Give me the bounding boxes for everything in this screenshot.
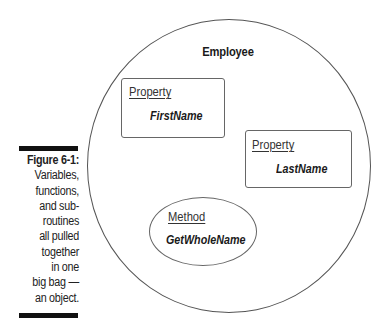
caption-line: routines bbox=[11, 214, 79, 229]
property-box-firstname: Property FirstName bbox=[121, 78, 225, 138]
caption-line: together bbox=[11, 245, 79, 260]
member-name: FirstName bbox=[150, 109, 203, 123]
caption-line: functions, bbox=[11, 184, 79, 199]
member-kind-label: Method bbox=[168, 209, 205, 224]
caption-line: Variables, bbox=[11, 168, 79, 183]
object-label: Employee bbox=[200, 44, 255, 59]
caption-bottom-rule bbox=[19, 313, 78, 318]
caption-top-rule bbox=[19, 146, 78, 151]
member-kind-label: Property bbox=[129, 84, 171, 99]
member-name: GetWholeName bbox=[166, 233, 245, 247]
member-name: LastName bbox=[276, 162, 327, 176]
caption-line: big bag — bbox=[11, 275, 79, 290]
caption-line: and sub- bbox=[11, 199, 79, 214]
property-box-lastname: Property LastName bbox=[245, 130, 352, 188]
caption-line: in one bbox=[11, 260, 79, 275]
figure-number: Figure 6-1: bbox=[11, 153, 79, 168]
caption-line: all pulled bbox=[11, 229, 79, 244]
figure-caption: Figure 6-1: Variables, functions, and su… bbox=[11, 153, 79, 306]
member-kind-label: Property bbox=[252, 137, 294, 152]
caption-line: an object. bbox=[11, 291, 79, 306]
method-ellipse-getwholename: Method GetWholeName bbox=[149, 197, 257, 266]
